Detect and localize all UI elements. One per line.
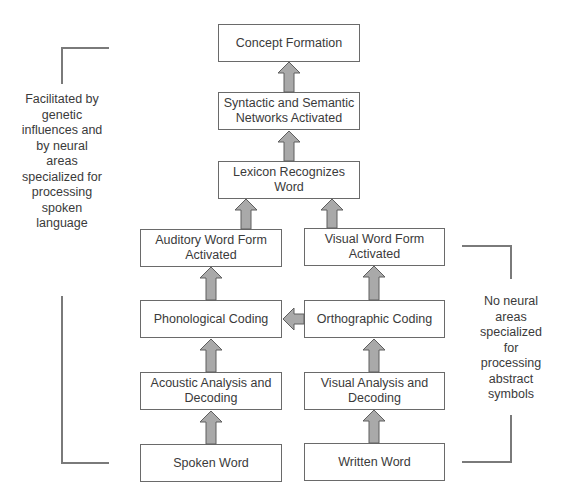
arrow-up-icon <box>235 199 257 229</box>
arrow-left-icon <box>283 308 304 330</box>
arrow-up-icon <box>363 339 385 372</box>
arrow-up-icon <box>278 62 300 92</box>
arrow-up-icon <box>363 410 385 443</box>
arrow-up-icon <box>278 131 300 161</box>
arrow-up-icon <box>200 267 222 300</box>
flow-arrows <box>0 0 561 504</box>
arrow-up-icon <box>200 339 222 372</box>
arrow-up-icon <box>363 266 385 300</box>
arrow-up-icon <box>321 199 343 228</box>
arrow-up-icon <box>200 411 222 444</box>
